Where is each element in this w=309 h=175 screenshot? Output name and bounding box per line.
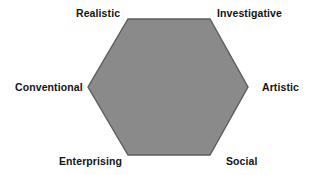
vertex-label-artistic: Artistic	[262, 81, 299, 93]
vertex-label-investigative: Investigative	[217, 7, 282, 19]
vertex-label-conventional: Conventional	[15, 81, 83, 93]
riasec-hexagon-figure: Realistic Investigative Conventional Art…	[0, 0, 309, 175]
vertex-label-enterprising: Enterprising	[59, 155, 122, 167]
hexagon-polygon	[88, 19, 248, 155]
vertex-label-realistic: Realistic	[76, 7, 120, 19]
vertex-label-social: Social	[226, 155, 258, 167]
